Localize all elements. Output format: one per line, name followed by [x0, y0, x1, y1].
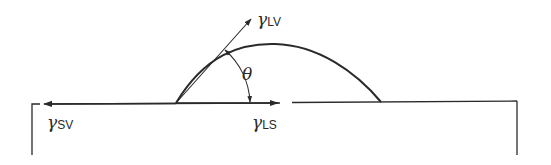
- gamma-lv-arrow: [176, 19, 251, 103]
- gamma-lv-label: γLV: [257, 9, 281, 29]
- contact-angle-diagram: γLV θ γSV γLS: [0, 0, 551, 165]
- gamma-sv-arrow: [44, 104, 176, 105]
- substrate-surface-right: [292, 101, 517, 103]
- gamma-ls-label: γLS: [252, 112, 277, 132]
- substrate-left-edge: [32, 104, 40, 155]
- drop-profile: [176, 44, 381, 103]
- theta-label: θ: [242, 64, 252, 84]
- gamma-sv-label: γSV: [47, 112, 73, 132]
